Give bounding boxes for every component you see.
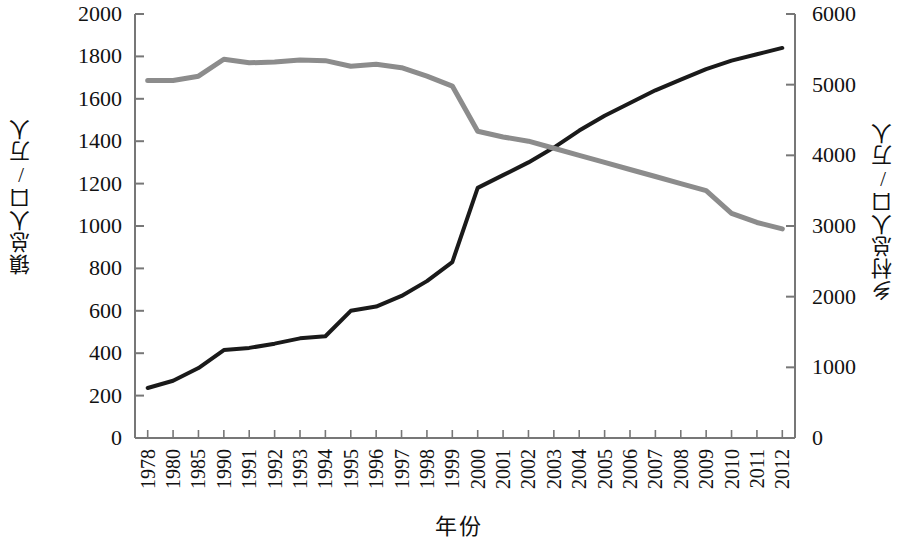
right-axis-tick-label: 5000 xyxy=(812,72,856,98)
left-axis-tick-label: 200 xyxy=(0,383,122,409)
x-axis-tick-label: 2002 xyxy=(517,449,540,489)
left-axis-tick-label: 1600 xyxy=(0,86,122,112)
right-axis-title: 乡村总人口/万人 xyxy=(868,122,898,301)
left-axis-tick-label: 600 xyxy=(0,298,122,324)
left-axis-tick-label: 2000 xyxy=(0,1,122,27)
x-axis-tick-label: 2006 xyxy=(619,449,642,489)
left-axis-title: 镇总人口/万人 xyxy=(6,118,36,275)
x-axis-tick-label: 2004 xyxy=(568,449,591,489)
data-series-group xyxy=(148,48,783,388)
x-axis-tick-label: 1980 xyxy=(162,449,185,489)
x-axis-tick-label: 1990 xyxy=(213,449,236,489)
x-axis-tick-label: 2001 xyxy=(492,449,515,489)
x-axis-tick-label: 2000 xyxy=(467,449,490,489)
right-axis-tick-label: 3000 xyxy=(812,213,856,239)
x-axis-tick-label: 2009 xyxy=(695,449,718,489)
x-axis-tick-label: 2011 xyxy=(746,449,769,488)
right-axis-tick-label: 4000 xyxy=(812,142,856,168)
x-axis-tick-label: 1993 xyxy=(289,449,312,489)
x-axis-tick-label: 1995 xyxy=(340,449,363,489)
right-axis-tick-label: 2000 xyxy=(812,284,856,310)
left-axis-tick-label: 1800 xyxy=(0,43,122,69)
x-axis-tick-label: 2003 xyxy=(543,449,566,489)
x-axis-tick-label: 1997 xyxy=(391,449,414,489)
left-axis-tick-label: 400 xyxy=(0,340,122,366)
x-axis-tick-label: 1991 xyxy=(238,449,261,489)
x-axis-tick-label: 1992 xyxy=(264,449,287,489)
x-axis-tick-label: 2010 xyxy=(721,449,744,489)
right-axis-tick-label: 6000 xyxy=(812,1,856,27)
right-axis-tick-label: 1000 xyxy=(812,354,856,380)
x-axis-tick-label: 2008 xyxy=(670,449,693,489)
x-axis-tick-label: 2007 xyxy=(644,449,667,489)
x-axis-tick-label: 1998 xyxy=(416,449,439,489)
x-axis-tick-label: 1999 xyxy=(441,449,464,489)
population-line-chart: 0200400600800100012001400160018002000 01… xyxy=(0,0,917,546)
x-axis-tick-label: 2012 xyxy=(771,449,794,489)
x-axis-title: 年份 xyxy=(0,508,917,540)
series-line-2 xyxy=(148,59,783,229)
left-axis-tick-label: 0 xyxy=(0,425,122,451)
x-axis-tick-label: 1978 xyxy=(137,449,160,489)
series-line-1 xyxy=(148,48,783,388)
x-axis-tick-label: 1996 xyxy=(365,449,388,489)
right-axis-tick-label: 0 xyxy=(812,425,823,451)
x-axis-tick-label: 1994 xyxy=(314,449,337,489)
x-axis-tick-label: 1985 xyxy=(187,449,210,489)
x-axis-tick-label: 2005 xyxy=(594,449,617,489)
